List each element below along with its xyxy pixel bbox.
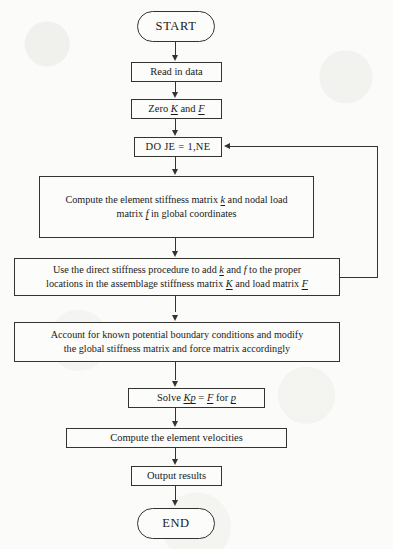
node-boundary-conditions-label: Account for known potential boundary con…	[45, 328, 310, 356]
edge-direct-stiffness-to-boundary-conditions-line	[175, 296, 176, 312]
edge-read-data-to-zero-arrowhead	[172, 92, 178, 98]
node-output-results-label: Output results	[141, 469, 212, 483]
edge-loop-back-segment-right	[377, 146, 378, 278]
node-start-label: START	[150, 18, 203, 35]
node-do-loop[interactable]: DO JE = 1,NE	[134, 137, 222, 157]
node-boundary-conditions[interactable]: Account for known potential boundary con…	[14, 322, 340, 362]
node-compute-velocities-label: Compute the element velocities	[104, 431, 249, 445]
compute-element-text-1: Compute the element stiffness matrix	[65, 194, 220, 205]
node-zero-k-and-f[interactable]: Zero K and F	[131, 99, 222, 119]
solve-text-1: Solve	[157, 392, 184, 403]
node-compute-element-stiffness-label: Compute the element stiffness matrix k a…	[59, 193, 293, 221]
zero-text-2: and	[178, 103, 198, 114]
edge-boundary-conditions-to-solve-arrowhead	[172, 381, 178, 387]
node-read-in-data-label: Read in data	[144, 65, 208, 79]
node-direct-stiffness-procedure-label: Use the direct stiffness procedure to ad…	[40, 263, 314, 291]
edge-zero-to-do-loop-arrowhead	[172, 130, 178, 136]
solve-symbol-p-2: p	[231, 392, 236, 403]
node-solve-system-label: Solve Kp = F for p	[151, 391, 242, 405]
node-read-in-data[interactable]: Read in data	[131, 62, 222, 82]
zero-symbol-f: F	[198, 103, 204, 114]
edge-loop-back-segment-bottom	[340, 277, 378, 278]
edge-boundary-conditions-to-solve-line	[175, 362, 176, 380]
edge-do-loop-to-compute-element-arrowhead	[172, 169, 178, 175]
edge-start-to-read-data-line	[175, 42, 176, 56]
edge-solve-to-compute-velocities-line	[175, 407, 176, 421]
edge-output-results-to-end-line	[175, 486, 176, 501]
compute-element-text-3: matrix	[117, 208, 146, 219]
edge-start-to-read-data-arrowhead	[172, 55, 178, 61]
edge-loop-back-segment-top	[230, 146, 378, 147]
edge-do-loop-to-compute-element-line	[175, 156, 176, 170]
solve-text-2: =	[196, 392, 207, 403]
node-zero-k-and-f-label: Zero K and F	[142, 102, 210, 116]
compute-element-text-2: and nodal load	[225, 194, 288, 205]
direct-stiffness-symbol-k-upper: K	[226, 278, 233, 289]
flowchart-canvas: START Read in data Zero K and F DO JE = …	[0, 0, 393, 549]
edge-loop-back-arrowhead	[224, 143, 230, 149]
direct-stiffness-text-4: locations in the assemblage stiffness ma…	[46, 278, 226, 289]
boundary-conditions-line-2: the global stiffness matrix and force ma…	[64, 343, 290, 354]
node-compute-element-stiffness[interactable]: Compute the element stiffness matrix k a…	[39, 176, 314, 238]
node-direct-stiffness-procedure[interactable]: Use the direct stiffness procedure to ad…	[14, 258, 340, 296]
direct-stiffness-text-5: and load matrix	[233, 278, 302, 289]
edge-compute-element-to-direct-stiffness-arrowhead	[172, 251, 178, 257]
node-start[interactable]: START	[137, 11, 215, 42]
edge-direct-stiffness-to-boundary-conditions-arrowhead	[172, 315, 178, 321]
edge-output-results-to-end-arrowhead	[172, 500, 178, 506]
node-end-label: END	[156, 515, 196, 532]
edge-compute-velocities-to-output-results-arrowhead	[172, 459, 178, 465]
node-solve-system[interactable]: Solve Kp = F for p	[128, 388, 265, 408]
node-end[interactable]: END	[137, 508, 215, 539]
zero-text-1: Zero	[148, 103, 170, 114]
direct-stiffness-text-2: and	[224, 264, 244, 275]
zero-symbol-k: K	[171, 103, 178, 114]
direct-stiffness-text-3: to the proper	[247, 264, 302, 275]
edge-compute-element-to-direct-stiffness-line	[175, 238, 176, 252]
edge-zero-to-do-loop-line	[175, 118, 176, 130]
direct-stiffness-symbol-f-upper: F	[302, 278, 308, 289]
solve-text-3: for	[213, 392, 231, 403]
boundary-conditions-line-1: Account for known potential boundary con…	[51, 329, 304, 340]
node-do-loop-label: DO JE = 1,NE	[140, 140, 217, 154]
node-compute-velocities[interactable]: Compute the element velocities	[66, 428, 287, 448]
node-output-results[interactable]: Output results	[131, 466, 222, 486]
direct-stiffness-text-1: Use the direct stiffness procedure to ad…	[53, 264, 219, 275]
compute-element-text-4: in global coordinates	[148, 208, 236, 219]
edge-solve-to-compute-velocities-arrowhead	[172, 421, 178, 427]
